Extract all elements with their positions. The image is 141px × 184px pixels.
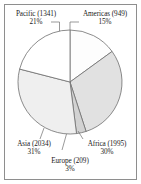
- slice-label-europe-name: Europe (209): [51, 157, 89, 165]
- slice-label-pacific-name: Pacific (1341): [16, 10, 56, 18]
- slice-label-europe-percent: 3%: [38, 165, 102, 173]
- slice-label-asia: Asia (2034) 31%: [4, 140, 64, 157]
- slice-label-asia-name: Asia (2034): [17, 140, 51, 148]
- slice-label-pacific: Pacific (1341) 21%: [5, 10, 67, 27]
- pie-chart-figure: Pacific (1341) 21% Americas (949) 15% Af…: [0, 0, 141, 184]
- slice-label-africa-name: Africa (1995): [88, 140, 127, 148]
- slice-label-africa-percent: 30%: [76, 148, 138, 156]
- slice-label-pacific-percent: 21%: [5, 18, 67, 26]
- slice-label-europe: Europe (209) 3%: [38, 157, 102, 174]
- slice-label-asia-percent: 31%: [4, 148, 64, 156]
- pie-slices-group: [18, 30, 122, 134]
- slice-label-americas-percent: 15%: [72, 18, 138, 26]
- leader-line-asia: [40, 128, 44, 139]
- slice-label-americas-name: Americas (949): [83, 10, 127, 18]
- slice-label-africa: Africa (1995) 30%: [76, 140, 138, 157]
- slice-label-americas: Americas (949) 15%: [72, 10, 138, 27]
